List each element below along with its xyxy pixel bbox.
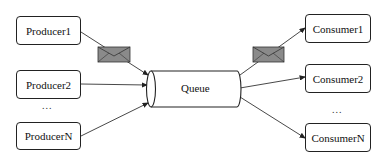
- envelope-icon: [98, 47, 130, 62]
- queue-label: Queue: [181, 82, 210, 94]
- arrow-producer2-queue: [81, 84, 147, 85]
- arrow-queue-consumer2: [240, 77, 305, 88]
- producer-node-1: Producer1: [16, 16, 81, 45]
- producer-label: Producer2: [26, 79, 71, 91]
- producers-ellipsis: ...: [42, 100, 53, 111]
- consumer-node-n: ConsumerN: [305, 123, 371, 152]
- consumer-label: ConsumerN: [311, 132, 364, 144]
- producer-node-n: ProducerN: [16, 122, 81, 150]
- producer-label: Producer1: [26, 25, 71, 37]
- envelope-icon: [253, 47, 284, 62]
- consumer-label: Consumer2: [313, 73, 364, 85]
- consumers-ellipsis: ...: [332, 104, 343, 115]
- producer-node-2: Producer2: [16, 70, 81, 99]
- arrow-producerN-queue: [81, 103, 148, 136]
- consumer-node-1: Consumer1: [305, 14, 371, 43]
- arrow-queue-consumerN: [240, 97, 305, 138]
- consumer-node-2: Consumer2: [305, 64, 371, 93]
- producer-label: ProducerN: [25, 130, 73, 142]
- consumer-label: Consumer1: [313, 23, 364, 35]
